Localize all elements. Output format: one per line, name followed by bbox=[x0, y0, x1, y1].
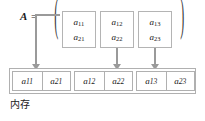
memory-caption: 内存 bbox=[10, 99, 30, 110]
memory-group-column-1: a11 a21 bbox=[12, 71, 71, 91]
matrix-entry-a22: a22 bbox=[101, 33, 133, 43]
memory-cell-a22: a22 bbox=[104, 72, 133, 90]
memory-cell-a11: a11 bbox=[13, 72, 42, 90]
memory-group-column-2: a12 a22 bbox=[74, 71, 133, 91]
matrix-column-2: a12 a22 bbox=[100, 11, 134, 48]
memory-cell-a13: a13 bbox=[137, 72, 166, 90]
matrix-entry-a11: a11 bbox=[63, 18, 95, 28]
matrix-entry-a23: a23 bbox=[139, 33, 171, 43]
matrix-entry-a12: a12 bbox=[101, 18, 133, 28]
connector-elbow-horizontal bbox=[35, 14, 60, 16]
memory-group-column-3: a13 a23 bbox=[136, 71, 195, 91]
right-parenthesis: ) bbox=[180, 0, 184, 38]
memory-cell-a23: a23 bbox=[166, 72, 195, 90]
matrix-entry-a13: a13 bbox=[139, 18, 171, 28]
matrix-label-A: A bbox=[20, 11, 27, 22]
matrix-memory-layout-diagram: A = ( ) a11 a21 a12 a22 a13 a23 bbox=[0, 0, 205, 121]
memory-cell-a12: a12 bbox=[75, 72, 104, 90]
memory-cell-a21: a21 bbox=[42, 72, 71, 90]
matrix-column-3: a13 a23 bbox=[138, 11, 172, 48]
memory-row: a11 a21 a12 a22 a13 a23 bbox=[9, 68, 196, 94]
matrix-column-1: a11 a21 bbox=[62, 11, 96, 48]
matrix-entry-a21: a21 bbox=[63, 33, 95, 43]
left-parenthesis: ( bbox=[54, 0, 58, 38]
